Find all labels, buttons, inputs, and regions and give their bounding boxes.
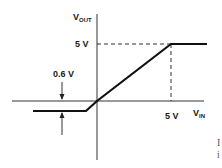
offset-label: 0.6 V: [53, 69, 74, 79]
y-axis-label: VOUT: [73, 12, 92, 23]
arrow-up-icon: [60, 112, 65, 118]
x-axis-label: VIN: [193, 108, 205, 119]
y-tick-5v-label: 5 V: [75, 39, 89, 49]
arrow-down-icon: [60, 94, 65, 100]
edge-fragment-2: i: [217, 149, 220, 160]
x-tick-5v-label: 5 V: [165, 111, 179, 121]
transfer-characteristic-diagram: VOUT 5 V 0.6 V 5 V VIN I i: [0, 0, 222, 168]
edge-fragment-1: I: [217, 137, 220, 148]
